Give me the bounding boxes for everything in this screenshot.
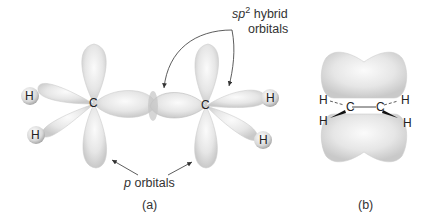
pi-bond-cloud	[321, 52, 406, 162]
atom-b-c-right: C	[376, 100, 385, 114]
caption-a: (a)	[142, 198, 157, 212]
caption-b: (b)	[358, 198, 373, 212]
atom-c-right: C	[201, 98, 210, 112]
atom-b-c-left: C	[346, 100, 355, 114]
sp2-orbitals-label: orbitals	[248, 22, 288, 36]
atom-b-h-top-right: H	[401, 93, 410, 107]
atom-b-h-top-left: H	[319, 93, 328, 107]
atom-c-left: C	[89, 96, 98, 110]
atom-b-h-bottom-right: H	[403, 116, 412, 130]
ethylene-orbital-diagram: sp2 hybrid orbitals p orbitals (a) C C H…	[0, 0, 436, 218]
atom-h-right-top: H	[266, 91, 275, 105]
orbital-drawing	[0, 0, 436, 218]
atom-b-h-bottom-left: H	[319, 114, 328, 128]
atom-h-right-bottom: H	[259, 133, 268, 147]
atom-h-left-bottom: H	[31, 128, 40, 142]
p-orbitals-label: p orbitals	[124, 176, 175, 190]
sp2-hybrid-label: sp2 hybrid	[232, 5, 288, 21]
atom-h-left-top: H	[25, 89, 34, 103]
